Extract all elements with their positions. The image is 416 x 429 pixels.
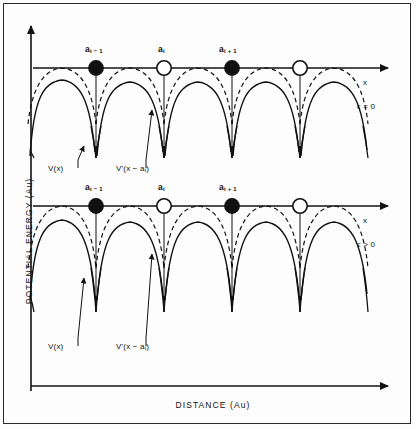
top-dashed-curves xyxy=(28,68,368,124)
bottom-panel-group xyxy=(28,199,388,346)
top-x-axis-symbol: x xyxy=(363,78,367,87)
bottom-solid-curve-label: V(x) xyxy=(48,342,63,351)
atom-open xyxy=(293,61,307,75)
top-leader-lines xyxy=(78,110,152,168)
figure-container: ai − 1 ai ai + 1 x ϵ = 0 V(x) V'(x − ai)… xyxy=(0,0,416,429)
atom-filled xyxy=(89,199,103,213)
bottom-well-fills xyxy=(93,276,303,312)
y-axis-title: POTENTIAL ENERGY (Au) xyxy=(24,166,34,316)
bottom-condition-label: ϵ > 0 xyxy=(357,240,375,249)
atom-open xyxy=(293,199,307,213)
atom-filled xyxy=(225,199,239,213)
top-solid-curve-label: V(x) xyxy=(48,164,63,173)
top-well-fills xyxy=(93,132,303,158)
top-condition-label: ϵ = 0 xyxy=(357,102,375,111)
atom-filled xyxy=(89,61,103,75)
bottom-site-label-i: ai xyxy=(158,182,165,192)
top-site-label-i: ai xyxy=(158,44,165,54)
bottom-leader-lines xyxy=(78,254,152,346)
diagram-canvas xyxy=(0,0,416,429)
top-panel-group xyxy=(28,61,388,168)
bottom-well-cusps xyxy=(30,268,368,312)
bottom-x-axis-symbol: x xyxy=(363,216,367,225)
top-solid-curves xyxy=(30,80,367,156)
top-site-label-i-plus-1: ai + 1 xyxy=(219,44,237,54)
atom-open xyxy=(157,199,171,213)
top-dashed-curve-label: V'(x − ai) xyxy=(116,164,149,173)
x-axis-title: DISTANCE (Au) xyxy=(133,400,293,410)
bottom-solid-curves xyxy=(30,220,367,300)
bottom-dashed-curve-label: V'(x − ai) xyxy=(116,342,149,351)
bottom-dashed-curves xyxy=(28,206,368,268)
top-site-label-i-minus-1: ai − 1 xyxy=(85,44,103,54)
atom-filled xyxy=(225,61,239,75)
bottom-site-label-i-minus-1: ai − 1 xyxy=(85,182,103,192)
atom-open xyxy=(157,61,171,75)
bottom-site-label-i-plus-1: ai + 1 xyxy=(219,182,237,192)
